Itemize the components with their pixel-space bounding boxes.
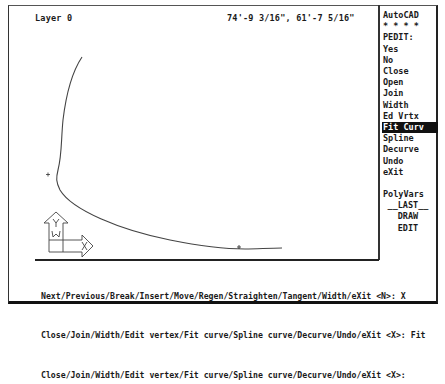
menu-item-edit-vertex[interactable]: Ed Vrtx xyxy=(382,111,438,122)
command-prompt-area[interactable]: Next/Previous/Break/Insert/Move/Regen/St… xyxy=(41,263,426,384)
command-line-2: Close/Join/Width/Edit vertex/Fit curve/S… xyxy=(41,329,426,342)
command-area-divider xyxy=(35,259,379,261)
menu-item-spline[interactable]: Spline xyxy=(382,133,438,144)
screen-side-menu: AutoCAD * * * * PEDIT: Yes No Close Open… xyxy=(382,10,438,234)
menu-item-close[interactable]: Close xyxy=(382,66,438,77)
menu-separator-stars[interactable]: * * * * xyxy=(382,21,438,32)
command-line-1: Next/Previous/Break/Insert/Move/Regen/St… xyxy=(41,290,426,303)
command-line-3[interactable]: Close/Join/Width/Edit vertex/Fit curve/S… xyxy=(41,369,426,382)
fitted-polyline-curve[interactable] xyxy=(57,57,282,249)
side-menu-divider xyxy=(378,5,380,260)
menu-item-width[interactable]: Width xyxy=(382,100,438,111)
menu-item-draw[interactable]: DRAW xyxy=(382,211,434,222)
menu-item-polyvars[interactable]: PolyVars xyxy=(382,189,438,200)
menu-item-no[interactable]: No xyxy=(382,55,438,66)
menu-item-pedit[interactable]: PEDIT: xyxy=(382,32,438,43)
menu-item-yes[interactable]: Yes xyxy=(382,44,438,55)
drawing-canvas[interactable] xyxy=(10,7,378,259)
menu-item-undo[interactable]: Undo xyxy=(382,156,438,167)
menu-item-fit-curve[interactable]: Fit Curv xyxy=(382,122,438,133)
menu-item-open[interactable]: Open xyxy=(382,77,438,88)
point-marker xyxy=(46,173,50,177)
menu-item-edit[interactable]: EDIT xyxy=(382,223,434,234)
menu-title-autocad[interactable]: AutoCAD xyxy=(382,10,438,21)
menu-item-decurve[interactable]: Decurve xyxy=(382,144,438,155)
menu-spacer xyxy=(382,178,438,189)
menu-item-join[interactable]: Join xyxy=(382,88,438,99)
menu-item-exit[interactable]: eXit xyxy=(382,167,438,178)
ucs-icon xyxy=(44,212,93,257)
menu-item-last[interactable]: __LAST__ xyxy=(382,200,434,211)
